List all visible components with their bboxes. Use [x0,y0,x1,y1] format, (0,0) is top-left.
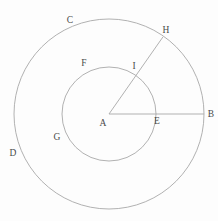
geometry-diagram: ABCDEFGHI [0,0,218,221]
point-label-C: C [67,15,73,25]
point-label-B: B [208,109,214,119]
point-label-A: A [100,118,107,128]
point-label-F: F [81,58,86,68]
point-label-E: E [154,116,160,126]
diagram-svg: ABCDEFGHI [0,0,218,221]
point-label-I: I [132,61,135,71]
point-label-H: H [163,25,170,35]
point-label-D: D [10,148,17,158]
point-label-G: G [54,132,61,142]
